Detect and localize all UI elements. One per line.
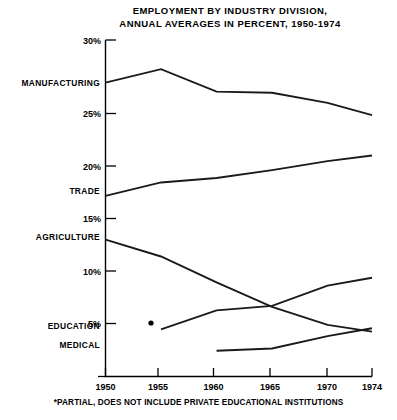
asterisk-marker-icon: [148, 320, 153, 325]
x-axis-ticks: [106, 368, 373, 377]
chart-footnote: *PARTIAL, DOES NOT INCLUDE PRIVATE EDUCA…: [0, 398, 397, 407]
series-line-manufacturing: [106, 69, 373, 115]
y-tick-label-30: 30%: [83, 36, 101, 46]
series-label-medical: MEDICAL: [59, 340, 100, 350]
series-label-agriculture: AGRICULTURE: [36, 232, 100, 242]
series-label-manufacturing: MANUFACTURING: [21, 78, 100, 88]
x-tick-label-1955: 1955: [148, 382, 168, 392]
x-tick-label-1960: 1960: [203, 382, 223, 392]
x-tick-label-1970: 1970: [317, 382, 337, 392]
series-label-trade: TRADE: [69, 186, 100, 196]
y-tick-label-25: 25%: [83, 109, 101, 119]
x-tick-label-1974: 1974: [362, 382, 382, 392]
y-tick-label-10: 10%: [83, 267, 101, 277]
x-tick-label-1950: 1950: [95, 382, 115, 392]
series-label-education: EDUCATION: [48, 321, 100, 331]
y-tick-label-20: 20%: [83, 162, 101, 172]
series-line-trade: [106, 156, 373, 196]
series-line-medical: [217, 328, 372, 350]
line-chart-plot: 5% 10% 15% 20% 25% 30% 1950 1955 1960 19…: [0, 0, 397, 420]
series-paths: [106, 69, 373, 351]
x-tick-label-1965: 1965: [260, 382, 280, 392]
chart-container: EMPLOYMENT BY INDUSTRY DIVISION, ANNUAL …: [0, 0, 397, 420]
education-partial-marker: [148, 320, 153, 325]
y-tick-label-15: 15%: [83, 214, 101, 224]
